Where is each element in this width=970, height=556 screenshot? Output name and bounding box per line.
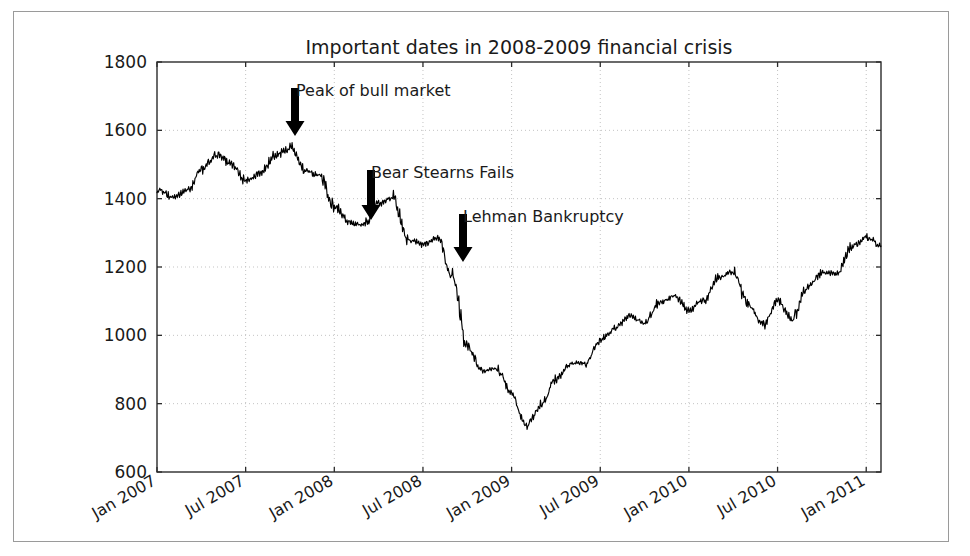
x-axis-tick-label: Jan 2011 — [797, 471, 868, 523]
y-axis-tick-label: 1600 — [104, 120, 147, 140]
x-axis-tick-label: Jan 2009 — [442, 471, 513, 523]
y-axis-tick-label: 1000 — [104, 325, 147, 345]
annotation-label-bear-stearns-fails: Bear Stearns Fails — [371, 163, 514, 182]
x-axis-tick-label: Jul 2010 — [713, 471, 780, 521]
y-axis-tick-label: 1200 — [104, 257, 147, 277]
x-axis-tick-label: Jul 2009 — [536, 471, 603, 521]
screenshot-root: 60080010001200140016001800 Jan 2007Jul 2… — [0, 0, 970, 556]
x-axis-tick-label: Jul 2008 — [358, 471, 425, 521]
annotation-lehman-bankruptcy: Lehman Bankruptcy — [454, 207, 624, 262]
y-axis-tick-labels: 60080010001200140016001800 — [104, 52, 147, 482]
chart-title: Important dates in 2008-2009 financial c… — [306, 36, 733, 58]
annotation-label-lehman-bankruptcy: Lehman Bankruptcy — [463, 207, 624, 226]
chart-canvas: 60080010001200140016001800 Jan 2007Jul 2… — [0, 0, 970, 556]
x-axis-tick-label: Jan 2010 — [620, 471, 691, 523]
y-axis-tick-label: 800 — [115, 394, 147, 414]
x-axis-tick-labels: Jan 2007Jul 2007Jan 2008Jul 2008Jan 2009… — [88, 471, 869, 523]
y-axis-tick-label: 1800 — [104, 52, 147, 72]
series-line-sp500 — [157, 143, 881, 430]
data-series-layer — [157, 143, 881, 430]
x-axis-tick-label: Jul 2007 — [181, 471, 248, 521]
annotations-layer: Peak of bull marketBear Stearns FailsLeh… — [286, 81, 624, 262]
annotation-label-peak-of-bull-market: Peak of bull market — [296, 81, 451, 100]
annotation-peak-of-bull-market: Peak of bull market — [286, 81, 451, 136]
x-axis-tick-label: Jan 2008 — [265, 471, 336, 523]
y-axis-tick-label: 1400 — [104, 189, 147, 209]
